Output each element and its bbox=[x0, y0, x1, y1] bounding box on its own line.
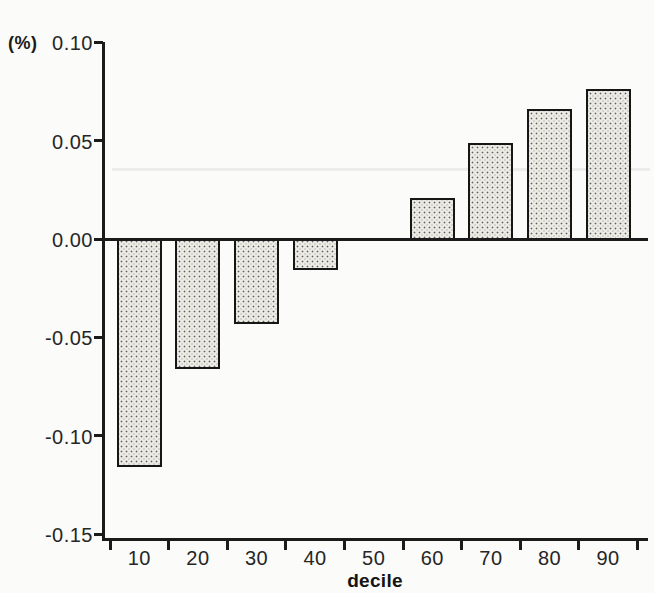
y-axis-tick-label: 0.10 bbox=[52, 32, 93, 55]
x-axis-tick-label: 30 bbox=[245, 547, 268, 570]
y-axis-tick bbox=[94, 336, 103, 339]
x-axis-tick bbox=[109, 540, 112, 550]
bar-decile-70 bbox=[468, 143, 513, 239]
y-axis-tick bbox=[94, 139, 103, 142]
y-axis-tick-label: 0.05 bbox=[52, 130, 93, 153]
x-axis-tick-label: 20 bbox=[186, 547, 209, 570]
x-axis-title: decile bbox=[347, 570, 403, 592]
x-axis-tick bbox=[460, 540, 463, 550]
zero-baseline bbox=[103, 238, 648, 241]
x-axis-tick bbox=[343, 540, 346, 550]
x-axis-tick bbox=[636, 540, 639, 550]
x-axis-tick-label: 80 bbox=[538, 547, 561, 570]
y-axis-tick-label: 0.00 bbox=[52, 229, 93, 252]
x-axis-tick-label: 10 bbox=[128, 547, 151, 570]
x-axis-tick bbox=[226, 540, 229, 550]
bar-decile-30 bbox=[234, 239, 279, 324]
bar-decile-10 bbox=[117, 239, 162, 467]
x-axis-tick-label: 60 bbox=[421, 547, 444, 570]
y-axis-tick bbox=[94, 41, 103, 44]
bar-decile-40 bbox=[293, 239, 338, 270]
y-axis-tick-label: -0.05 bbox=[45, 327, 93, 350]
plot-area: 0.100.050.00-0.05-0.10-0.15 102030405060… bbox=[0, 0, 654, 593]
x-axis-tick bbox=[402, 540, 405, 550]
y-axis-line bbox=[102, 42, 105, 540]
x-axis-baseline bbox=[102, 538, 648, 541]
x-axis-tick-label: 90 bbox=[596, 547, 619, 570]
x-axis-tick bbox=[519, 540, 522, 550]
x-axis-tick bbox=[167, 540, 170, 550]
y-axis-tick bbox=[94, 533, 103, 536]
y-axis-tick bbox=[94, 434, 103, 437]
x-axis-tick-label: 40 bbox=[303, 547, 326, 570]
bar-decile-20 bbox=[175, 239, 220, 369]
x-axis-tick-label: 50 bbox=[362, 547, 385, 570]
y-axis-tick-label: -0.15 bbox=[45, 524, 93, 547]
x-axis-tick bbox=[577, 540, 580, 550]
bar-decile-60 bbox=[410, 198, 455, 239]
bar-decile-80 bbox=[527, 109, 572, 239]
x-axis-tick bbox=[284, 540, 287, 550]
bar-decile-90 bbox=[586, 89, 631, 239]
x-axis-tick-label: 70 bbox=[479, 547, 502, 570]
y-axis-tick bbox=[94, 238, 103, 241]
y-axis-tick-label: -0.10 bbox=[45, 425, 93, 448]
bar-chart-figure: (%) 0.100.050.00-0.05-0.10-0.15 10203040… bbox=[0, 0, 654, 593]
